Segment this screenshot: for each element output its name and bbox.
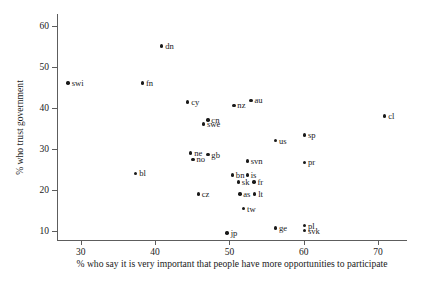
- data-point-sk: [237, 180, 240, 183]
- data-point-cz: [197, 192, 200, 195]
- data-point-fn: [141, 81, 144, 84]
- data-point-label-svn: svn: [251, 157, 263, 166]
- scatter-plot-figure: 102030405060 3040506070 swidnfncynzauclc…: [0, 0, 422, 283]
- data-point-label-cy: cy: [191, 98, 199, 107]
- data-point-label-dn: dn: [165, 42, 174, 51]
- data-point-ne: [189, 151, 192, 154]
- y-tick-60: 60: [52, 26, 57, 27]
- x-tick-label-60: 60: [299, 247, 309, 257]
- data-point-as: [238, 192, 241, 195]
- data-point-svk: [303, 229, 306, 232]
- x-axis-line: [57, 240, 407, 241]
- y-tick-label-10: 10: [40, 226, 50, 236]
- data-point-us: [274, 139, 277, 142]
- data-point-label-fn: fn: [146, 79, 153, 88]
- data-point-tw: [242, 207, 245, 210]
- data-point-label-sp: sp: [308, 131, 316, 140]
- data-point-lt: [253, 192, 256, 195]
- data-point-label-svk: svk: [308, 226, 320, 235]
- data-point-swi: [66, 81, 69, 84]
- y-tick-20: 20: [52, 190, 57, 191]
- data-point-label-ge: ge: [279, 224, 287, 233]
- data-point-label-cl: cl: [388, 112, 394, 121]
- data-point-label-gb: gb: [211, 150, 220, 159]
- data-point-svn: [246, 159, 249, 162]
- data-point-sp: [303, 133, 306, 136]
- x-tick-60: 60: [304, 240, 305, 245]
- data-point-label-tw: tw: [247, 204, 256, 213]
- x-tick-label-40: 40: [150, 247, 160, 257]
- data-point-pl: [303, 224, 306, 227]
- data-point-label-fr: fr: [257, 178, 263, 187]
- data-point-bl: [134, 172, 137, 175]
- data-point-ge: [274, 226, 277, 229]
- y-tick-label-60: 60: [40, 21, 50, 31]
- y-tick-label-30: 30: [40, 144, 50, 154]
- data-point-label-au: au: [254, 96, 262, 105]
- data-point-label-nz: nz: [237, 101, 245, 110]
- y-tick-30: 30: [52, 149, 57, 150]
- y-tick-40: 40: [52, 108, 57, 109]
- data-point-label-jp: jp: [231, 229, 238, 238]
- data-point-label-cz: cz: [202, 190, 210, 199]
- data-point-label-us: us: [279, 136, 287, 145]
- data-point-cy: [186, 100, 189, 103]
- data-point-jp: [225, 231, 228, 234]
- y-tick-label-40: 40: [40, 103, 50, 113]
- y-tick-50: 50: [52, 67, 57, 68]
- y-tick-label-20: 20: [40, 185, 50, 195]
- data-point-label-is: is: [251, 171, 257, 180]
- data-point-cl: [383, 114, 386, 117]
- x-tick-70: 70: [378, 240, 379, 245]
- data-point-label-swe: swe: [207, 120, 220, 129]
- data-point-label-as: as: [243, 190, 250, 199]
- data-point-label-no: no: [196, 155, 205, 164]
- data-point-label-sk: sk: [242, 178, 250, 187]
- data-point-bn: [231, 173, 234, 176]
- data-point-label-bl: bl: [139, 169, 146, 178]
- data-point-dn: [160, 44, 163, 47]
- x-tick-label-30: 30: [76, 247, 86, 257]
- x-tick-30: 30: [81, 240, 82, 245]
- y-tick-10: 10: [52, 231, 57, 232]
- data-point-gb: [206, 153, 209, 156]
- data-point-fr: [252, 180, 255, 183]
- data-point-swe: [202, 122, 205, 125]
- data-point-pr: [303, 161, 306, 164]
- data-point-nz: [232, 104, 235, 107]
- y-axis-title: % who trust government: [14, 14, 28, 241]
- x-tick-label-50: 50: [225, 247, 235, 257]
- x-tick-label-70: 70: [373, 247, 383, 257]
- x-tick-40: 40: [155, 240, 156, 245]
- y-tick-label-50: 50: [40, 62, 50, 72]
- data-point-no: [191, 158, 194, 161]
- data-point-label-pr: pr: [308, 158, 315, 167]
- x-axis-title: % who say it is very important that peop…: [57, 258, 407, 269]
- data-point-au: [249, 99, 252, 102]
- data-point-label-lt: lt: [258, 190, 263, 199]
- plot-area: 102030405060 3040506070 swidnfncynzauclc…: [57, 14, 407, 240]
- x-tick-50: 50: [229, 240, 230, 245]
- data-point-label-swi: swi: [72, 79, 84, 88]
